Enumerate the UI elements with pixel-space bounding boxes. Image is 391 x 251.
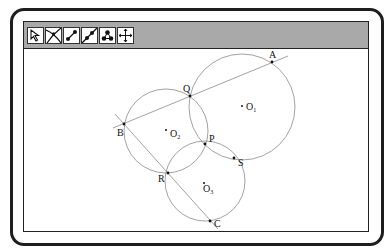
point-P[interactable]: P [204, 133, 215, 145]
center-O1[interactable]: O1 [241, 101, 256, 113]
svg-text:R: R [158, 173, 165, 184]
svg-text:Q: Q [183, 83, 191, 94]
svg-text:O1: O1 [246, 101, 256, 113]
point-R[interactable]: R [158, 172, 169, 184]
svg-text:A: A [269, 49, 277, 60]
svg-text:O2: O2 [170, 128, 180, 140]
center-O2[interactable]: O2 [165, 128, 180, 140]
svg-text:C: C [214, 218, 221, 229]
line-BA[interactable] [113, 56, 288, 128]
line-BC[interactable] [115, 114, 218, 229]
svg-text:S: S [238, 157, 244, 168]
svg-text:O3: O3 [203, 183, 213, 195]
point-S[interactable]: S [233, 157, 244, 168]
svg-text:P: P [209, 133, 215, 144]
circle-O3[interactable] [165, 141, 245, 221]
geometry-canvas[interactable]: A Q B P S R C O1 O2 O3 [0, 0, 391, 251]
center-O3[interactable]: O3 [203, 182, 213, 195]
point-C[interactable]: C [209, 218, 221, 229]
svg-text:B: B [117, 127, 124, 138]
point-Q[interactable]: Q [183, 83, 191, 97]
